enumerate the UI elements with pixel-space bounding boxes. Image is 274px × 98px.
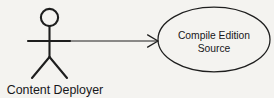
actor-left-leg-line [32, 57, 50, 78]
actor-right-leg-line [50, 57, 68, 78]
use-case-diagram-canvas: Compile Edition Source Content Deployer [0, 0, 274, 98]
actor-label: Content Deployer [7, 83, 103, 97]
use-case-compile-edition-source[interactable]: Compile Edition Source [158, 7, 270, 72]
actor-head-icon [41, 9, 58, 26]
use-case-label-line-2: Source [198, 43, 231, 54]
use-case-label-line-1: Compile Edition [178, 30, 250, 41]
diagram-svg-surface: Compile Edition Source Content Deployer [0, 0, 274, 98]
association-actor-to-use-case[interactable] [70, 35, 158, 47]
actor-content-deployer[interactable] [28, 9, 70, 78]
